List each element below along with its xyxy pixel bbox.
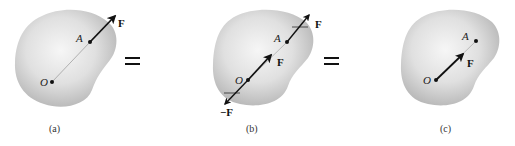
force-label-F: F (467, 57, 474, 69)
caption-a: (a) (49, 123, 60, 135)
equals-sign-1 (125, 57, 140, 65)
rigid-body-b (213, 10, 313, 106)
force-label-F: F (118, 17, 125, 29)
point-O-dot (434, 78, 438, 82)
point-A-label: A (461, 30, 469, 42)
point-O-label: O (423, 74, 431, 86)
equals-sign-2 (324, 57, 339, 65)
point-O-label: O (40, 76, 48, 88)
panel-a: O A F (a) (15, 10, 125, 135)
force-label-F-middle: F (277, 56, 284, 68)
principle-of-transmissibility-diagram: O A F (a) O A F F −F (b) (0, 0, 515, 146)
caption-b: (b) (246, 123, 258, 135)
point-A-label: A (75, 32, 83, 44)
point-O-dot (50, 80, 54, 84)
caption-c: (c) (440, 123, 451, 135)
point-A-dot (88, 40, 92, 44)
panel-c: O A F (c) (401, 10, 499, 135)
point-A-label: A (273, 32, 281, 44)
force-label-negative-F: −F (220, 106, 233, 118)
force-label-F-upper: F (315, 18, 322, 30)
point-A-dot (285, 40, 289, 44)
rigid-body-a (15, 10, 117, 107)
panel-b: O A F F −F (b) (213, 10, 322, 135)
point-A-dot (474, 39, 478, 43)
point-O-label: O (235, 74, 243, 86)
rigid-body-c (401, 10, 499, 106)
point-O-dot (246, 78, 250, 82)
